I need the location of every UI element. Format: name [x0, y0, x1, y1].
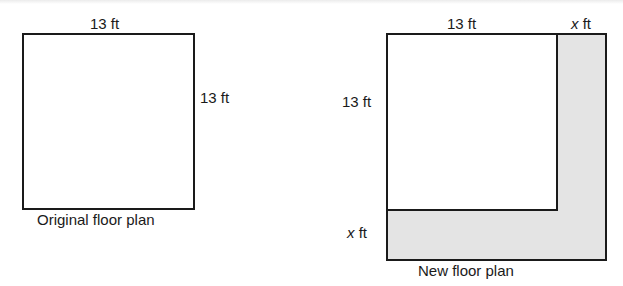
- new-top-extension-dimension: x ft: [571, 16, 591, 32]
- cutoff-question-text: [0, 0, 623, 4]
- new-top-dimension: 13 ft: [447, 16, 476, 32]
- original-side-dimension: 13 ft: [200, 90, 229, 106]
- new-bottom-extension-dimension: x ft: [347, 225, 367, 241]
- original-caption: Original floor plan: [37, 212, 155, 228]
- new-side-dimension: 13 ft: [342, 94, 371, 110]
- new-inner-square: [386, 33, 558, 211]
- variable-x: x: [347, 224, 355, 241]
- variable-x: x: [571, 15, 579, 32]
- original-top-dimension: 13 ft: [90, 16, 119, 32]
- new-caption: New floor plan: [418, 263, 514, 279]
- original-square: [22, 33, 195, 210]
